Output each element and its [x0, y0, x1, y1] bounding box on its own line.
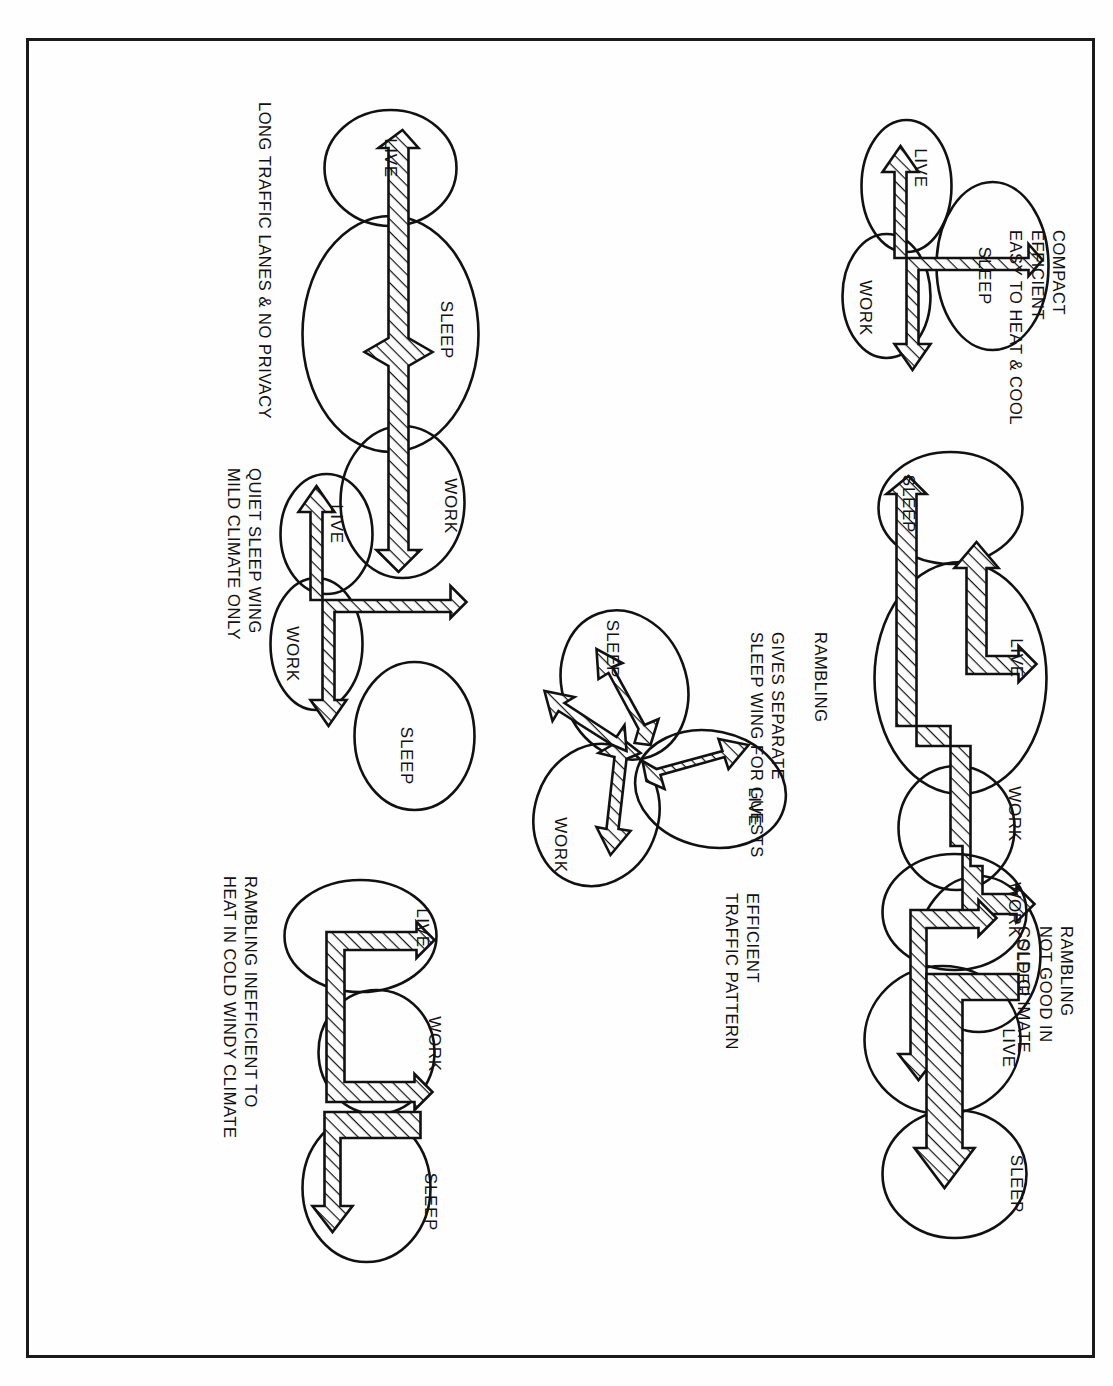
zone-label-sleep-left: SLEEP: [898, 475, 917, 533]
zone-label-work: WORK: [282, 626, 301, 682]
zone-label-sleep: SLEEP: [420, 1173, 439, 1231]
zone-label-live: LIVE: [1006, 638, 1025, 678]
caption-quiet-sleep-wing: QUIET SLEEP WING MILD CLIMATE ONLY: [221, 468, 264, 640]
zone-label-live: LIVE: [326, 504, 345, 544]
zone-label-live: LIVE: [412, 908, 431, 948]
traffic-arrow-pinwheel-b: [596, 739, 640, 855]
traffic-arrow-rambling-inefficient-tail: [312, 1112, 420, 1232]
zone-label-live: LIVE: [910, 148, 929, 188]
caption-rambling-inefficient: RAMBLING INEFFICIENT TO HEAT IN COLD WIN…: [217, 876, 260, 1138]
zone-label-work: WORK: [550, 817, 569, 873]
zone-label-work: WORK: [1004, 786, 1023, 842]
zone-label-work: WORK: [855, 280, 874, 336]
caption-long-linear: LONG TRAFFIC LANES & NO PRIVACY: [253, 102, 274, 419]
traffic-arrow-rambling-inefficient: [326, 922, 434, 1110]
page-root: LIVE WORK SLEEP COMPACT EFFICIENT EASY T…: [0, 0, 1113, 1386]
bubble-diagram-rambling-inefficient: LIVE WORK SLEEP: [252, 876, 492, 1306]
zone-label-live: LIVE: [744, 787, 763, 827]
zone-label-sleep: SLEEP: [974, 247, 993, 305]
traffic-arrow-rambling-cold-b: [914, 974, 1018, 1188]
zone-label-live: LIVE: [380, 138, 399, 178]
traffic-arrow-quiet-sleep: [298, 486, 466, 726]
caption-efficient-traffic: EFFICIENT TRAFFIC PATTERN: [719, 893, 762, 1050]
zone-label-sleep: SLEEP: [396, 727, 415, 785]
bubble-diagram-quiet-sleep: LIVE WORK SLEEP: [256, 468, 486, 888]
caption-compact-cluster: COMPACT EFFICIENT EASY TO HEAT & COOL: [1004, 230, 1068, 425]
traffic-arrow-pinwheel-a: [642, 739, 748, 789]
bubble-diagram-efficient-traffic: LIVE SLEEP WORK: [502, 593, 792, 923]
zone-label-sleep: SLEEP: [602, 620, 621, 678]
diagram-plate: LIVE WORK SLEEP COMPACT EFFICIENT EASY T…: [29, 38, 1092, 1358]
plate-border: LIVE WORK SLEEP COMPACT EFFICIENT EASY T…: [26, 38, 1095, 1358]
zone-label-work: WORK: [424, 1016, 443, 1072]
caption-rambling-cold: RAMBLING NOT GOOD IN COLD CLIMATE: [1012, 926, 1076, 1053]
traffic-arrow-pinwheel-d: [544, 691, 626, 751]
zone-label-sleep: SLEEP: [436, 301, 455, 359]
zone-label-sleep: SLEEP: [1006, 1155, 1025, 1213]
